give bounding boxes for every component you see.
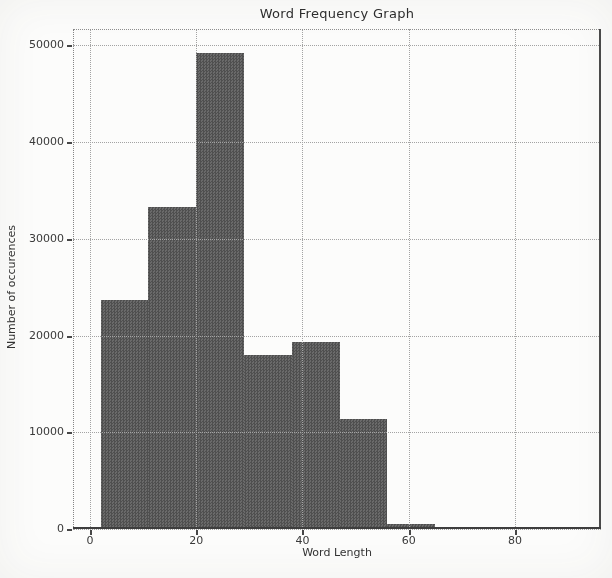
right-spine bbox=[599, 29, 601, 529]
left-spine bbox=[73, 29, 74, 529]
axes-spines bbox=[73, 29, 601, 529]
x-tick-label: 40 bbox=[272, 534, 332, 547]
y-tick-mark bbox=[67, 45, 72, 47]
figure: Word Frequency Graph Number of occurence… bbox=[0, 0, 612, 578]
y-tick-label: 30000 bbox=[0, 232, 64, 245]
plot-area bbox=[73, 29, 601, 529]
y-tick-label: 0 bbox=[0, 522, 64, 535]
x-tick-label: 60 bbox=[379, 534, 439, 547]
y-tick-label: 20000 bbox=[0, 329, 64, 342]
y-tick-mark bbox=[67, 239, 72, 241]
gridline-horizontal bbox=[73, 529, 601, 530]
y-tick-label: 50000 bbox=[0, 38, 64, 51]
x-tick-label: 80 bbox=[485, 534, 545, 547]
chart-title: Word Frequency Graph bbox=[73, 6, 601, 21]
y-tick-label: 40000 bbox=[0, 135, 64, 148]
x-axis-label: Word Length bbox=[73, 546, 601, 559]
y-tick-label: 10000 bbox=[0, 425, 64, 438]
x-axis-line bbox=[73, 527, 601, 529]
y-tick-mark bbox=[67, 142, 72, 144]
x-tick-label: 0 bbox=[60, 534, 120, 547]
x-tick-label: 20 bbox=[166, 534, 226, 547]
y-tick-mark bbox=[67, 529, 72, 531]
y-tick-mark bbox=[67, 432, 72, 434]
y-tick-mark bbox=[67, 336, 72, 338]
top-spine bbox=[73, 29, 601, 30]
